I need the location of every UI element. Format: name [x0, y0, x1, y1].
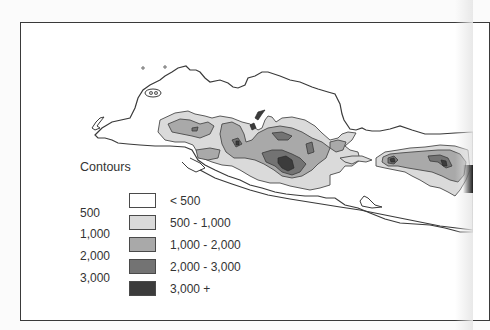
- legend-swatch-500-1000: [129, 215, 156, 230]
- contour-label-2000: 2,000: [80, 249, 110, 263]
- contour-label-3000: 3,000: [80, 271, 110, 285]
- legend-swatch-2000-3000: [129, 259, 156, 274]
- legend-title: Contours: [80, 160, 131, 174]
- legend-label-2000-3000: 2,000 - 3,000: [170, 260, 241, 274]
- small-island: [145, 89, 161, 97]
- legend-swatch-1000-2000: [129, 237, 156, 252]
- contour-label-1000: 1,000: [80, 227, 110, 241]
- legend-swatch-3000-plus: [129, 281, 156, 296]
- legend-label-lt500: < 500: [170, 194, 200, 208]
- legend-swatch-lt500: [129, 193, 156, 208]
- contour-label-500: 500: [80, 206, 100, 220]
- legend-label-500-1000: 500 - 1,000: [170, 216, 231, 230]
- page-edge-mark: [463, 165, 473, 193]
- legend-label-3000-plus: 3,000 +: [170, 282, 210, 296]
- legend-label-1000-2000: 1,000 - 2,000: [170, 238, 241, 252]
